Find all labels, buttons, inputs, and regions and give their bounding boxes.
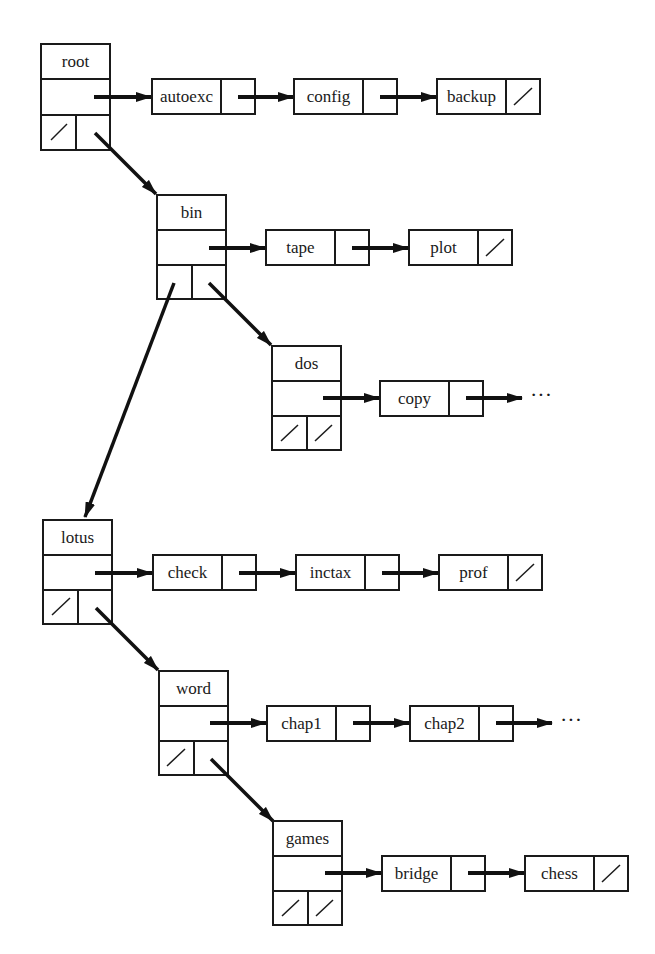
arrow-icon [96, 608, 158, 670]
dir-label-lotus: lotus [61, 528, 94, 547]
file-node-chess: chess [525, 856, 628, 891]
directory-tree-diagram: root autoexc config backup bin tape pl [0, 0, 655, 954]
arrow-icon [209, 283, 271, 345]
ellipsis: ··· [530, 382, 552, 407]
file-label-plot: plot [430, 238, 457, 257]
file-label-tape: tape [286, 238, 314, 257]
dir-label-root: root [62, 52, 90, 71]
file-label-autoexc: autoexc [160, 87, 213, 106]
file-node-plot: plot [409, 230, 512, 265]
file-label-config: config [307, 87, 351, 106]
file-label-inctax: inctax [310, 563, 352, 582]
arrow-icon [95, 133, 156, 194]
dir-label-games: games [286, 829, 329, 848]
dir-label-dos: dos [295, 354, 319, 373]
file-label-chap1: chap1 [281, 714, 322, 733]
file-label-copy: copy [398, 389, 432, 408]
ellipsis: ··· [560, 707, 582, 732]
file-label-check: check [168, 563, 208, 582]
file-label-prof: prof [459, 563, 488, 582]
file-node-prof: prof [439, 555, 542, 590]
arrow-icon [85, 283, 174, 517]
file-label-backup: backup [447, 87, 496, 106]
file-label-chess: chess [541, 864, 578, 883]
file-label-bridge: bridge [395, 864, 438, 883]
dir-label-bin: bin [181, 203, 203, 222]
arrow-icon [211, 759, 273, 821]
file-label-chap2: chap2 [424, 714, 465, 733]
file-node-backup: backup [437, 79, 540, 114]
dir-label-word: word [176, 679, 211, 698]
